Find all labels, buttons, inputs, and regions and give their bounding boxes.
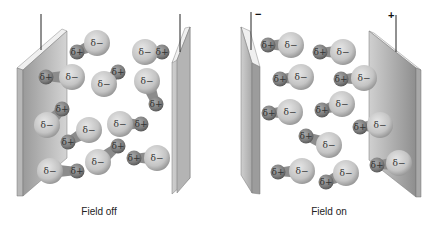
partial-negative-label: δ− <box>83 125 96 135</box>
partial-negative-label: δ− <box>66 72 79 82</box>
polar-molecule: δ−δ+ <box>313 39 357 65</box>
partial-negative-label: δ− <box>98 79 111 89</box>
panel-field-off: δ−δ+δ−δ+δ−δ+δ−δ+δ−δ+δ−δ+δ−δ+δ−δ+δ−δ+δ−δ+… <box>17 14 190 217</box>
polar-molecule: δ−δ+ <box>261 32 305 58</box>
partial-positive-label: δ+ <box>314 47 327 57</box>
partial-positive-label: δ+ <box>56 104 69 114</box>
partial-negative-label: δ− <box>336 99 349 109</box>
capacitor-plate-right <box>172 14 190 194</box>
capacitor-plate-negative: − <box>241 8 261 194</box>
polar-molecule: δ−δ+ <box>85 139 126 176</box>
polar-molecule: δ−δ+ <box>70 30 111 60</box>
polar-molecule: δ−δ+ <box>315 91 356 118</box>
partial-negative-label: δ− <box>295 72 308 82</box>
partial-positive-label: δ+ <box>371 160 384 170</box>
polar-molecule: δ−δ+ <box>127 145 171 171</box>
partial-negative-label: δ− <box>374 120 387 130</box>
partial-negative-label: δ− <box>151 153 164 163</box>
partial-positive-label: δ+ <box>71 47 84 57</box>
partial-negative-label: δ− <box>285 40 298 50</box>
partial-positive-label: δ+ <box>263 108 276 118</box>
polar-molecule: δ−δ+ <box>107 111 149 137</box>
partial-positive-label: δ+ <box>135 119 148 129</box>
partial-negative-label: δ− <box>44 166 57 176</box>
partial-positive-label: δ+ <box>320 177 333 187</box>
partial-positive-label: δ+ <box>71 166 84 176</box>
polar-molecule: δ−δ+ <box>271 158 316 184</box>
partial-positive-label: δ+ <box>300 131 313 141</box>
partial-negative-label: δ− <box>323 140 336 150</box>
polar-molecule: δ−δ+ <box>299 129 343 159</box>
partial-negative-label: δ− <box>141 76 154 86</box>
partial-positive-label: δ+ <box>128 153 141 163</box>
partial-negative-label: δ− <box>284 107 297 117</box>
polar-molecule: δ−δ+ <box>353 112 394 138</box>
partial-negative-label: δ− <box>393 158 406 168</box>
negative-terminal-label: − <box>255 8 261 20</box>
partial-positive-label: δ+ <box>112 67 125 77</box>
partial-positive-label: δ+ <box>112 141 125 151</box>
partial-positive-label: δ+ <box>262 40 275 50</box>
polar-molecule: δ−δ+ <box>273 64 315 90</box>
partial-positive-label: δ+ <box>150 99 163 109</box>
polar-molecule: δ−δ+ <box>134 68 164 112</box>
polar-molecule: δ−δ+ <box>334 65 378 91</box>
partial-negative-label: δ− <box>139 47 152 57</box>
partial-positive-label: δ+ <box>335 74 348 84</box>
partial-negative-label: δ− <box>358 73 371 83</box>
partial-negative-label: δ− <box>41 120 54 130</box>
caption-field-on: Field on <box>311 206 347 217</box>
partial-negative-label: δ− <box>337 47 350 57</box>
partial-positive-label: δ+ <box>272 167 285 177</box>
partial-positive-label: δ+ <box>62 137 75 147</box>
diagram-canvas: δ−δ+δ−δ+δ−δ+δ−δ+δ−δ+δ−δ+δ−δ+δ−δ+δ−δ+δ−δ+… <box>0 0 433 227</box>
partial-positive-label: δ+ <box>156 47 169 57</box>
partial-negative-label: δ− <box>91 38 104 48</box>
caption-field-off: Field off <box>81 206 117 217</box>
panel-field-on: − + δ−δ+δ−δ+δ−δ+δ−δ+δ−δ+δ−δ+δ−δ+δ−δ+δ−δ+… <box>241 8 421 217</box>
polar-molecule: δ−δ+ <box>319 160 360 190</box>
polar-molecule: δ−δ+ <box>91 65 126 98</box>
positive-terminal-label: + <box>388 9 394 21</box>
partial-positive-label: δ+ <box>316 105 329 115</box>
partial-negative-label: δ− <box>296 166 309 176</box>
partial-positive-label: δ+ <box>354 122 367 132</box>
partial-positive-label: δ+ <box>274 74 287 84</box>
partial-negative-label: δ− <box>340 168 353 178</box>
polar-molecule: δ−δ+ <box>132 39 170 65</box>
partial-positive-label: δ+ <box>40 72 53 82</box>
partial-negative-label: δ− <box>92 157 105 167</box>
polar-molecule: δ−δ+ <box>262 99 304 125</box>
partial-negative-label: δ− <box>114 119 127 129</box>
